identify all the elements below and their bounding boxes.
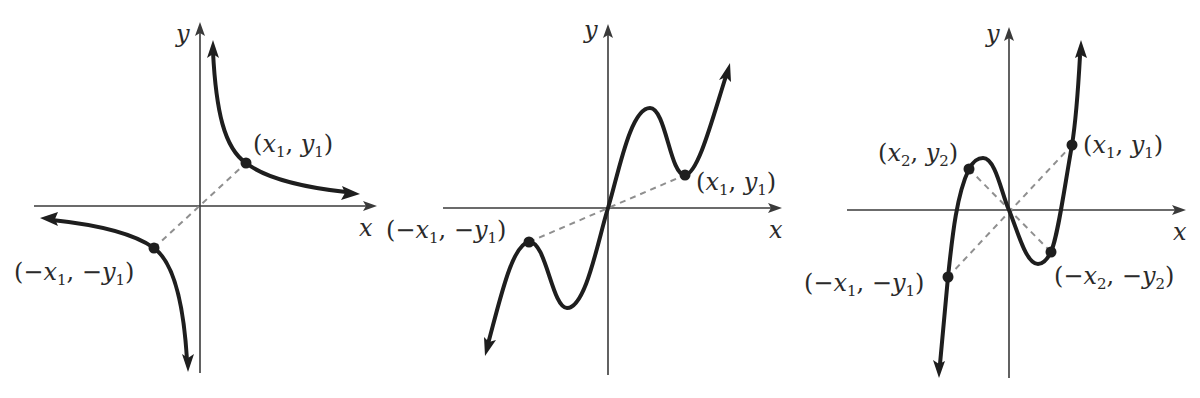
y-axis-label: y bbox=[175, 20, 190, 48]
odd-function-figure: y x (x1, y1) (−x1, −y1) y x (x1, y1) (−x… bbox=[0, 0, 1200, 398]
point-neg-x1-neg-y1 bbox=[943, 272, 954, 283]
panel-2: y x (x1, y1) (−x1, −y1) bbox=[386, 16, 783, 375]
point-neg-x2-neg-y2 bbox=[1046, 247, 1057, 258]
curve-upper-branch bbox=[213, 52, 346, 192]
point-x1-y1 bbox=[680, 170, 691, 181]
label-x1-y1: (x1, y1) bbox=[1083, 131, 1163, 162]
x-axis-label: x bbox=[1173, 218, 1187, 246]
x-axis-label: x bbox=[769, 216, 783, 244]
label-x2-y2: (x2, y2) bbox=[878, 139, 958, 170]
label-x1-y1: (x1, y1) bbox=[696, 168, 776, 199]
x-axis-label: x bbox=[359, 214, 373, 242]
point-neg-x1-neg-y1 bbox=[149, 243, 160, 254]
label-neg-x1-neg-y1: (−x1, −y1) bbox=[804, 269, 924, 300]
curve-lower-branch bbox=[52, 220, 187, 360]
point-neg-x1-neg-y1 bbox=[524, 237, 535, 248]
panel-3: y x (x1, y1) (x2, y2) (−x2, −y2) (−x1, −… bbox=[804, 20, 1187, 378]
point-x2-y2 bbox=[964, 164, 975, 175]
label-neg-x2-neg-y2: (−x2, −y2) bbox=[1054, 262, 1174, 293]
label-neg-x1-neg-y1: (−x1, −y1) bbox=[14, 258, 134, 289]
curve-wavy bbox=[488, 76, 726, 344]
point-x1-y1 bbox=[1067, 140, 1078, 151]
label-neg-x1-neg-y1: (−x1, −y1) bbox=[386, 216, 506, 247]
point-x1-y1 bbox=[241, 158, 252, 169]
y-axis-label: y bbox=[583, 16, 598, 44]
y-axis-label: y bbox=[985, 20, 1000, 48]
label-x1-y1: (x1, y1) bbox=[253, 130, 333, 161]
panel-1: y x (x1, y1) (−x1, −y1) bbox=[14, 20, 377, 373]
